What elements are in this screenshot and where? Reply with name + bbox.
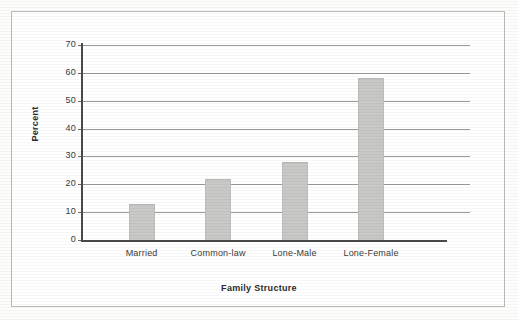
bar [358, 78, 384, 240]
y-tick-label: 0 [50, 235, 76, 244]
x-tick-label: Lone-Female [316, 248, 426, 259]
y-axis-tick-labels: 010203040506070 [48, 0, 76, 320]
y-axis-title: Percent [30, 89, 42, 159]
plot-area [82, 45, 472, 240]
y-tick-label: 10 [50, 207, 76, 216]
y-tick-label: 50 [50, 96, 76, 105]
y-tick-label: 60 [50, 68, 76, 77]
x-axis-line [81, 240, 447, 242]
y-tick-label: 40 [50, 124, 76, 133]
y-tick-label: 30 [50, 151, 76, 160]
bar [205, 179, 231, 240]
x-axis-tick-labels: MarriedCommon-lawLone-MaleLone-Female [82, 248, 472, 262]
x-axis-title: Family Structure [0, 283, 518, 293]
chart-figure: 010203040506070 MarriedCommon-lawLone-Ma… [0, 0, 518, 320]
y-tick-label: 70 [50, 40, 76, 49]
y-tick-label: 20 [50, 179, 76, 188]
bar [129, 204, 155, 240]
bar [282, 162, 308, 240]
